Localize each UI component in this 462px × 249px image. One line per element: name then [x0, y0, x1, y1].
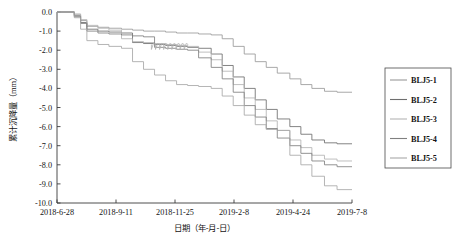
- y-tick-label: -8.0: [39, 161, 52, 170]
- series-line-blj5-5: [57, 12, 352, 190]
- y-tick-label: -5.0: [39, 104, 52, 113]
- settlement-line-chart: 0.0-1.0-2.0-3.0-4.0-5.0-6.0-7.0-8.0-9.0-…: [0, 0, 462, 249]
- x-tick-label: 2019-2-8: [219, 208, 249, 217]
- legend-label-blj5-2: BLJ5-2: [411, 96, 437, 105]
- chart-figure: 0.0-1.0-2.0-3.0-4.0-5.0-6.0-7.0-8.0-9.0-…: [0, 0, 462, 249]
- y-tick-label: -9.0: [39, 180, 52, 189]
- x-tick-label: 2019-7-8: [337, 208, 367, 217]
- x-tick-label: 2019-4-24: [276, 208, 310, 217]
- y-tick-label: -1.0: [39, 27, 52, 36]
- series-line-blj5-4: [57, 12, 352, 167]
- x-axis-title: 日期（年-月-日）: [174, 223, 236, 233]
- y-tick-label: -10.0: [35, 199, 52, 208]
- x-tick-label: 2018-9-11: [99, 208, 133, 217]
- y-axis-title: 累计沉降量（mm）: [8, 73, 18, 142]
- y-tick-label: -6.0: [39, 123, 52, 132]
- legend-label-blj5-5: BLJ5-5: [411, 154, 437, 163]
- legend-label-blj5-3: BLJ5-3: [411, 115, 437, 124]
- y-tick-label: -3.0: [39, 65, 52, 74]
- y-tick-label: -4.0: [39, 84, 52, 93]
- legend-label-blj5-4: BLJ5-4: [411, 135, 437, 144]
- legend-label-blj5-1: BLJ5-1: [411, 76, 437, 85]
- x-tick-label: 2018-6-28: [40, 208, 74, 217]
- y-tick-label: 0.0: [42, 8, 52, 17]
- chart-axes: [57, 12, 352, 203]
- x-tick-label: 2018-11-25: [156, 208, 194, 217]
- y-tick-label: -7.0: [39, 142, 52, 151]
- series-line-blj5-2: [57, 12, 352, 144]
- y-tick-label: -2.0: [39, 46, 52, 55]
